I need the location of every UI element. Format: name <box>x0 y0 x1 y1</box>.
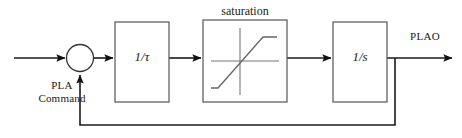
block-diagram: saturation 1/τ 1/s PLA Command PLAO <box>0 0 462 138</box>
block-gain-label: 1/τ <box>135 50 150 65</box>
block-integrator-label: 1/s <box>352 50 367 65</box>
saturation-caption: saturation <box>221 5 268 19</box>
input-signal-label-line1: PLA <box>38 79 85 92</box>
input-signal-label-line2: Command <box>38 92 85 105</box>
output-signal-label: PLAO <box>410 30 440 43</box>
input-signal-label: PLA Command <box>38 79 85 104</box>
diagram-canvas <box>0 0 462 138</box>
summing-junction <box>67 45 94 72</box>
